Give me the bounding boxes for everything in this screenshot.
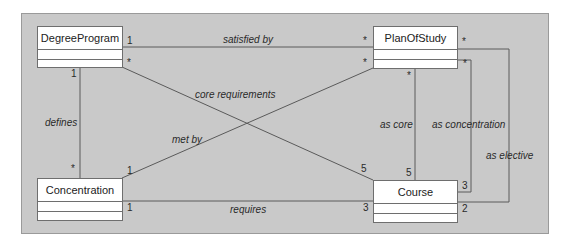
label-as-core: as core	[380, 119, 413, 130]
operations-compartment	[374, 214, 457, 223]
class-course[interactable]: Course	[373, 180, 458, 223]
association-met-by-line	[122, 68, 373, 178]
mult-core-requirements-to: 5	[361, 163, 367, 174]
mult-defines-from: 1	[71, 68, 77, 79]
mult-as-elective-to: 2	[462, 203, 468, 214]
label-defines: defines	[45, 117, 77, 128]
attributes-compartment	[38, 202, 122, 212]
class-concentration[interactable]: Concentration	[37, 178, 123, 221]
mult-met-by-from: 1	[127, 165, 133, 176]
mult-satisfied-by-to: *	[363, 35, 367, 46]
label-as-concentration: as concentration	[432, 119, 505, 130]
attributes-compartment	[38, 50, 122, 60]
operations-compartment	[374, 60, 457, 69]
mult-requires-to: 3	[363, 202, 369, 213]
class-name: DegreeProgram	[38, 27, 122, 50]
operations-compartment	[38, 60, 122, 69]
class-plan-of-study[interactable]: PlanOfStudy	[373, 26, 458, 69]
attributes-compartment	[374, 204, 457, 214]
mult-as-core-to: 5	[406, 167, 412, 178]
mult-as-concentration-to: 3	[462, 180, 468, 191]
mult-met-by-to: *	[363, 57, 367, 68]
mult-as-elective-from: *	[462, 36, 466, 47]
class-name: PlanOfStudy	[374, 27, 457, 50]
attributes-compartment	[374, 50, 457, 60]
class-name: Course	[374, 181, 457, 204]
mult-as-concentration-from: *	[463, 58, 467, 69]
label-requires: requires	[230, 204, 266, 215]
label-core-requirements: core requirements	[195, 89, 276, 100]
mult-satisfied-by-from: 1	[127, 35, 133, 46]
mult-core-requirements-from: *	[127, 57, 131, 68]
class-name: Concentration	[38, 179, 122, 202]
mult-as-core-from: *	[407, 70, 411, 81]
mult-requires-from: 1	[127, 202, 133, 213]
label-as-elective: as elective	[486, 150, 533, 161]
operations-compartment	[38, 212, 122, 221]
class-degree-program[interactable]: DegreeProgram	[37, 26, 123, 68]
label-satisfied-by: satisfied by	[223, 34, 273, 45]
mult-defines-to: *	[71, 163, 75, 174]
label-met-by: met by	[172, 134, 202, 145]
